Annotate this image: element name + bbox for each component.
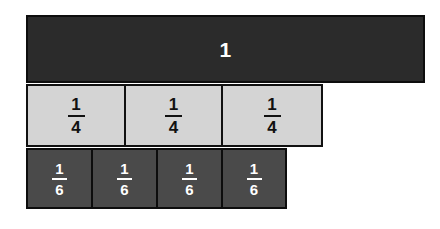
sixth-cell: 1 6 [26,148,93,209]
sixth-cell: 1 6 [221,148,287,209]
fraction-denominator: 6 [185,182,193,197]
fraction-numerator: 1 [55,161,63,176]
fraction-numerator: 1 [169,96,178,113]
fraction-one-sixth: 1 6 [117,161,132,197]
fraction-bar-line [182,178,197,180]
fraction-denominator: 4 [71,119,80,136]
fraction-bar-line [165,115,182,117]
quarter-cell: 1 4 [221,84,323,147]
fraction-numerator: 1 [267,96,276,113]
fraction-bar-line [264,115,281,117]
fraction-numerator: 1 [71,96,80,113]
sixth-cell: 1 6 [91,148,158,209]
fraction-numerator: 1 [185,161,193,176]
quarter-cell: 1 4 [124,84,223,147]
fraction-bar-line [247,178,262,180]
fraction-denominator: 4 [169,119,178,136]
whole-bar-row: 1 [26,15,425,83]
fraction-bar-line [117,178,132,180]
quarter-cell: 1 4 [26,84,126,147]
whole-bar-cell: 1 [26,15,425,83]
fraction-one-sixth: 1 6 [247,161,262,197]
fraction-bars-diagram: 1 1 4 1 4 1 4 [0,0,440,229]
fraction-bar-line [68,115,85,117]
fraction-bar-line [52,178,67,180]
fraction-denominator: 6 [55,182,63,197]
fraction-one-fourth: 1 4 [264,96,281,136]
fraction-denominator: 6 [250,182,258,197]
fraction-one-fourth: 1 4 [165,96,182,136]
whole-bar-label: 1 [219,39,231,60]
fraction-denominator: 6 [120,182,128,197]
fraction-one-fourth: 1 4 [68,96,85,136]
fraction-numerator: 1 [250,161,258,176]
fraction-one-sixth: 1 6 [182,161,197,197]
quarters-bar-row: 1 4 1 4 1 4 [26,84,325,147]
sixths-bar-row: 1 6 1 6 1 6 1 6 [26,148,291,209]
fraction-one-sixth: 1 6 [52,161,67,197]
fraction-numerator: 1 [120,161,128,176]
sixth-cell: 1 6 [156,148,223,209]
fraction-denominator: 4 [267,119,276,136]
